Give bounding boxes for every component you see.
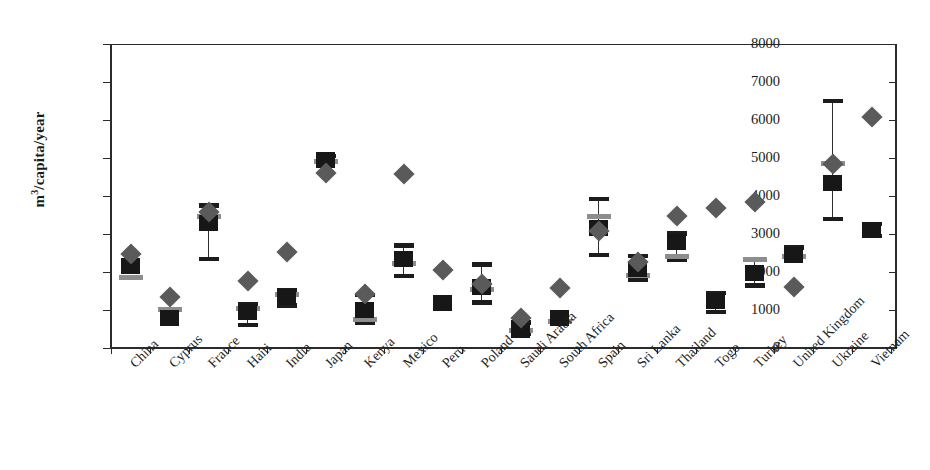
diamond-marker [666,205,687,226]
y-tick [103,82,110,83]
y-tick-label: 1000 [751,302,780,317]
y-tick-right [889,44,896,45]
y-tick-label: 6000 [751,112,780,127]
diamond-marker [783,277,804,298]
y-tick [103,44,110,45]
y-axis-title: m3/capita/year [29,70,48,250]
error-bar-cap [394,243,414,247]
y-tick [103,348,110,349]
square-marker [862,222,881,238]
diamond-marker [159,286,180,307]
y-axis-line [110,44,112,348]
chart-container: m3/capita/year 0100020003000400050006000… [0,0,930,470]
mean-dash-marker [743,257,767,262]
error-bar-cap [394,274,414,278]
error-bar-cap [706,310,726,314]
diamond-marker [861,106,882,127]
y-tick-label: 7000 [751,74,780,89]
diamond-marker [237,271,258,292]
plot-area: 010002000300040005000600070008000 [110,44,897,348]
y-tick [103,158,110,159]
y-tick [103,120,110,121]
square-marker [394,251,413,267]
y-tick-right [889,82,896,83]
error-bar-cap [199,257,219,261]
y-tick-right [889,196,896,197]
mean-dash-marker [119,275,143,280]
square-marker [667,234,686,250]
square-marker [433,295,452,311]
diamond-marker [549,277,570,298]
y-tick-right [889,120,896,121]
error-bar-cap [589,253,609,257]
error-bar-cap [745,283,765,287]
square-marker [277,289,296,305]
square-marker [238,304,257,320]
error-bar-cap [589,197,609,201]
error-bar-cap [823,99,843,103]
y-tick-label: 3000 [751,226,780,241]
y-tick-right [889,234,896,235]
square-marker [745,265,764,281]
error-bar-cap [238,323,258,327]
diamond-marker [393,164,414,185]
y-tick-right [889,310,896,311]
y-tick [103,272,110,273]
y-tick-right [889,272,896,273]
error-bar-cap [472,262,492,266]
y-tick [103,196,110,197]
y-tick-label: 5000 [751,150,780,165]
y-tick [103,310,110,311]
y-tick [103,234,110,235]
diamond-marker [276,241,297,262]
mean-dash-marker [353,317,377,322]
y-tick-right [889,158,896,159]
diamond-marker [705,198,726,219]
x-tick [111,348,112,354]
square-marker [706,293,725,309]
square-marker [160,310,179,326]
mean-dash-marker [587,214,611,219]
square-marker [784,247,803,263]
square-marker [823,175,842,191]
error-bar-cap [472,300,492,304]
error-bar-cap [823,217,843,221]
diamond-marker [822,153,843,174]
y-tick-label: 8000 [751,36,780,51]
mean-dash-marker [665,254,689,259]
diamond-marker [432,260,453,281]
